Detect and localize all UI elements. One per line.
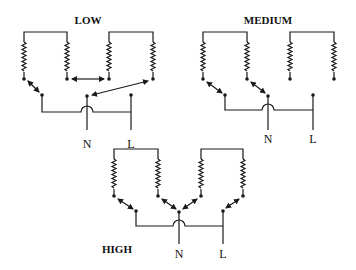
- neutral-label-medium: N: [264, 132, 273, 146]
- title-medium: MEDIUM: [244, 14, 293, 26]
- panel-high: [112, 149, 245, 244]
- wiring-diagram: LOW N L MEDIUM N L HIGH N L: [0, 0, 356, 270]
- neutral-label-low: N: [83, 137, 92, 151]
- panel-low: [22, 32, 155, 130]
- panel-medium: [201, 32, 336, 130]
- title-low: LOW: [75, 14, 102, 26]
- terminal-dots: [22, 77, 336, 214]
- line-label-high: L: [219, 247, 226, 261]
- line-label-low: L: [127, 137, 134, 151]
- line-label-medium: L: [309, 132, 316, 146]
- neutral-label-high: N: [175, 247, 184, 261]
- title-high: HIGH: [102, 243, 132, 255]
